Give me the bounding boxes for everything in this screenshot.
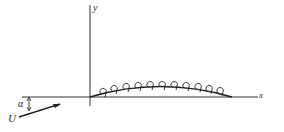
y-axis-label: y	[93, 3, 97, 13]
vortex-icon	[206, 85, 212, 94]
vortex-icon	[111, 85, 117, 94]
vortex-icon	[123, 83, 129, 92]
x-axis-label: x	[259, 91, 263, 100]
velocity-label: U	[8, 113, 16, 124]
arrowhead-icon	[53, 104, 61, 108]
vortex-sheet	[100, 81, 223, 97]
diagram-canvas	[0, 0, 284, 132]
vortex-icon	[147, 81, 153, 90]
vortex-icon	[217, 87, 223, 96]
vortex-icon	[183, 82, 189, 91]
vortex-icon	[171, 81, 177, 90]
alpha-label: α	[18, 99, 23, 109]
vortex-icon	[195, 83, 201, 92]
velocity-arrow	[19, 104, 60, 117]
